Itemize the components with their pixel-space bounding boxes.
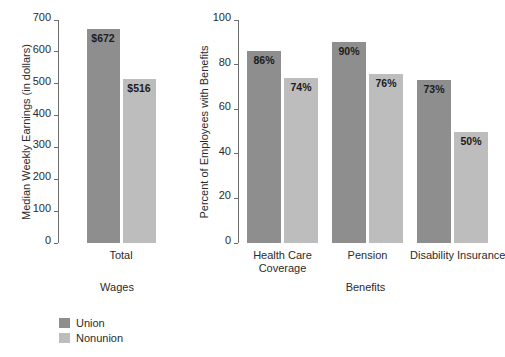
y-axis-tick-label: 400 bbox=[33, 108, 51, 119]
y-axis-tick-label: 60 bbox=[219, 101, 231, 112]
bar-value-label: 73% bbox=[417, 84, 451, 95]
y-axis-tick-mark bbox=[234, 153, 238, 154]
bar-nonunion-1: $516 bbox=[123, 79, 156, 243]
bar-value-label: 50% bbox=[454, 136, 488, 147]
bar-value-label: $516 bbox=[123, 83, 156, 94]
y-axis-tick-label: 100 bbox=[33, 203, 51, 214]
y-axis-tick-label: 0 bbox=[225, 235, 231, 246]
y-axis-tick-mark bbox=[234, 243, 238, 244]
y-axis-tick-label: 0 bbox=[45, 235, 51, 246]
y-axis-tick-label: 80 bbox=[219, 57, 231, 68]
figure: Median Weekly Earnings (in dollars) 0100… bbox=[0, 0, 505, 357]
y-axis-tick-mark bbox=[54, 83, 58, 84]
y-axis-tick-mark bbox=[54, 243, 58, 244]
y-axis-tick-label: 100 bbox=[213, 12, 231, 23]
plot-area-benefits: 02040608010086%74%Health CareCoverage90%… bbox=[238, 20, 493, 243]
bar-value-label: 90% bbox=[332, 46, 366, 57]
bar-value-label: 76% bbox=[369, 78, 403, 89]
y-axis-tick-mark bbox=[234, 109, 238, 110]
bar-nonunion-3: 50% bbox=[454, 132, 488, 244]
y-axis-tick-label: 700 bbox=[33, 12, 51, 23]
y-axis-tick-mark bbox=[54, 179, 58, 180]
y-axis-tick-mark bbox=[54, 147, 58, 148]
y-axis-tick-label: 40 bbox=[219, 146, 231, 157]
bar-nonunion-1: 74% bbox=[284, 78, 318, 243]
x-axis-category-label: Pension bbox=[325, 249, 410, 262]
bar-value-label: 86% bbox=[247, 55, 281, 66]
y-axis-tick-mark bbox=[234, 20, 238, 21]
bar-union-2: 90% bbox=[332, 42, 366, 243]
y-axis-tick-label: 600 bbox=[33, 44, 51, 55]
y-axis-label-benefits: Percent of Employees with Benefits bbox=[198, 45, 210, 218]
bar-union-1: 86% bbox=[247, 51, 281, 243]
bar-value-label: 74% bbox=[284, 82, 318, 93]
y-axis-tick-mark bbox=[54, 51, 58, 52]
y-axis-tick-mark bbox=[54, 211, 58, 212]
y-axis-tick-label: 300 bbox=[33, 139, 51, 150]
legend-label-nonunion: Nonunion bbox=[76, 332, 123, 344]
legend-item-union: Union bbox=[59, 313, 123, 328]
x-axis-category-label: Total bbox=[62, 249, 180, 262]
bar-union-1: $672 bbox=[87, 29, 120, 243]
x-axis-label-benefits: Benefits bbox=[238, 281, 493, 293]
y-axis-line-wages bbox=[58, 20, 59, 243]
y-axis-tick-label: 500 bbox=[33, 76, 51, 87]
y-axis-line-benefits bbox=[238, 20, 239, 243]
bar-value-label: $672 bbox=[87, 33, 120, 44]
bar-nonunion-2: 76% bbox=[369, 74, 403, 243]
x-axis-label-wages: Wages bbox=[58, 281, 176, 293]
x-axis-category-label: Disability Insurance bbox=[410, 249, 495, 262]
bar-union-3: 73% bbox=[417, 80, 451, 243]
plot-area-wages: 0100200300400500600700$672$516Total bbox=[58, 20, 176, 243]
y-axis-tick-mark bbox=[54, 20, 58, 21]
y-axis-label-wages: Median Weekly Earnings (in dollars) bbox=[20, 44, 32, 220]
legend-swatch-union-icon bbox=[59, 318, 70, 328]
legend-swatch-nonunion-icon bbox=[59, 333, 70, 343]
y-axis-tick-mark bbox=[234, 64, 238, 65]
legend: Union Nonunion bbox=[59, 313, 123, 343]
y-axis-tick-label: 20 bbox=[219, 190, 231, 201]
chart-wages: Median Weekly Earnings (in dollars) 0100… bbox=[18, 0, 188, 300]
y-axis-tick-mark bbox=[54, 115, 58, 116]
legend-item-nonunion: Nonunion bbox=[59, 328, 123, 343]
y-axis-tick-mark bbox=[234, 198, 238, 199]
x-axis-category-label: Health CareCoverage bbox=[240, 249, 325, 275]
chart-benefits: Percent of Employees with Benefits 02040… bbox=[198, 0, 498, 300]
y-axis-tick-label: 200 bbox=[33, 171, 51, 182]
